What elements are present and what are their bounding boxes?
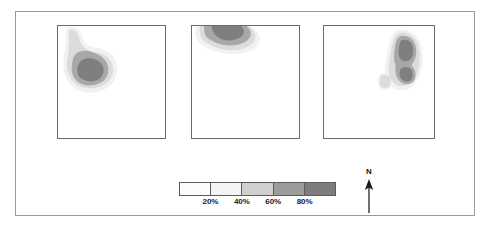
- north-arrow: N: [357, 167, 381, 215]
- map-panel-2: [191, 25, 300, 139]
- legend-color-bar: [179, 182, 336, 196]
- map-panel-1: [57, 25, 166, 139]
- map-panel-3: [323, 25, 435, 139]
- map-panel-2-surface: [192, 26, 299, 138]
- contour-band-80-100-upper: [398, 40, 413, 62]
- legend-tick-labels: 20% 40% 60% 80%: [179, 197, 336, 209]
- legend-tick-label-20: 20%: [203, 197, 219, 206]
- map-panel-3-surface: [324, 26, 434, 138]
- figure-root: 20% 40% 60% 80% N: [0, 0, 488, 229]
- legend-swatch-40-60: [242, 183, 273, 195]
- legend-swatch-80-100: [305, 183, 335, 195]
- legend-swatch-20-40: [211, 183, 242, 195]
- north-arrow-label: N: [357, 167, 381, 176]
- map-panel-1-surface: [58, 26, 165, 138]
- legend: 20% 40% 60% 80%: [179, 182, 336, 196]
- north-arrow-icon: [357, 177, 381, 215]
- legend-swatch-60-80: [274, 183, 305, 195]
- contour-satellite-40-60: [380, 75, 391, 88]
- figure-outer-frame: 20% 40% 60% 80% N: [15, 11, 475, 216]
- legend-tick-label-80: 80%: [297, 197, 313, 206]
- legend-tick-label-40: 40%: [234, 197, 250, 206]
- legend-tick-label-60: 60%: [265, 197, 281, 206]
- legend-swatch-0-20: [180, 183, 211, 195]
